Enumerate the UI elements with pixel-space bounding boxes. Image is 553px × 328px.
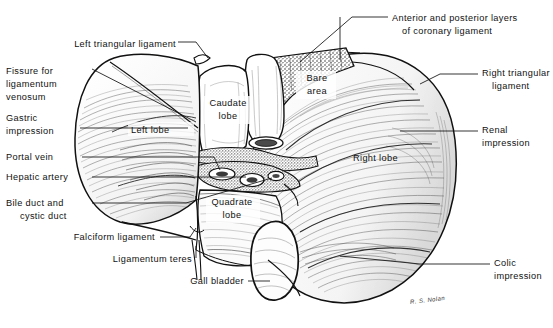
label-bile-duct-line2: cystic duct [20, 210, 67, 223]
label-colic-impression-line1: Colic [494, 257, 516, 270]
label-caudate-lobe-line2: lobe [204, 110, 252, 123]
label-bare-area-line1: Bare [296, 72, 338, 85]
label-ligamentum-teres: Ligamentum teres [0, 253, 192, 266]
label-quadrate-lobe-line2: lobe [204, 209, 260, 222]
label-gastric-impression-line2: impression [6, 125, 54, 138]
label-fissure-ligamentum-venosum-line3: venosum [6, 91, 46, 104]
label-falciform-ligament: Falciform ligament [0, 231, 155, 244]
label-fissure-ligamentum-venosum-line1: Fissure for [6, 65, 53, 78]
label-fissure-ligamentum-venosum-line2: ligamentum [6, 78, 57, 91]
label-left-triangular-ligament: Left triangular ligament [0, 38, 176, 51]
label-right-triangular-ligament-line2: ligament [492, 80, 530, 93]
label-renal-impression-line2: impression [482, 137, 530, 150]
gall-bladder-shape [251, 222, 298, 301]
label-gall-bladder: Gall bladder [0, 275, 244, 288]
label-bare-area-line2: area [296, 85, 338, 98]
label-renal-impression-line1: Renal [482, 124, 508, 137]
label-caudate-lobe-line1: Caudate [204, 97, 252, 110]
label-coronary-ligament-line2: of coronary ligament [402, 25, 492, 38]
label-gastric-impression-line1: Gastric [6, 112, 38, 125]
label-bile-duct-line1: Bile duct and [6, 197, 64, 210]
label-right-lobe: Right lobe [353, 152, 398, 165]
label-quadrate-lobe-line1: Quadrate [204, 196, 260, 209]
label-coronary-ligament-line1: Anterior and posterior layers [392, 12, 518, 25]
label-colic-impression-line2: impression [494, 270, 542, 283]
label-right-triangular-ligament-line1: Right triangular [482, 67, 550, 80]
label-left-lobe: Left lobe [131, 124, 169, 137]
left-lobe-shape [75, 54, 210, 224]
label-portal-vein: Portal vein [6, 151, 53, 164]
label-hepatic-artery: Hepatic artery [6, 171, 68, 184]
